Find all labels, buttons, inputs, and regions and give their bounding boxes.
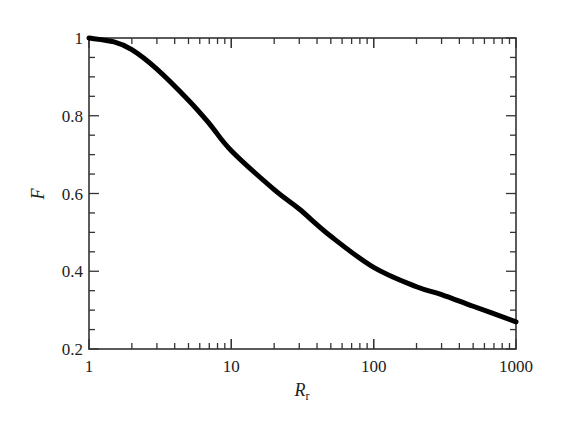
x-tick-label: 1 <box>85 357 94 376</box>
y-tick-label: 1 <box>75 29 84 48</box>
x-tick-label: 10 <box>223 357 240 376</box>
data-curve <box>89 38 516 322</box>
y-tick-label: 0.2 <box>62 340 83 359</box>
y-tick-labels: 0.20.40.60.81 <box>62 29 84 359</box>
y-tick-label: 0.4 <box>62 262 84 281</box>
y-tick-label: 0.8 <box>62 107 83 126</box>
plot-frame <box>89 38 516 349</box>
x-tick-label: 1000 <box>499 357 533 376</box>
y-tick-label: 0.6 <box>62 185 83 204</box>
x-axis-label: Rr <box>294 380 310 403</box>
x-tick-label: 100 <box>361 357 387 376</box>
axis-ticks <box>89 38 516 349</box>
x-tick-labels: 1101001000 <box>85 357 533 376</box>
y-axis-label: F <box>28 188 48 201</box>
plot-border <box>89 38 516 349</box>
chart: 1101001000 0.20.40.60.81 Rr F <box>0 0 562 423</box>
